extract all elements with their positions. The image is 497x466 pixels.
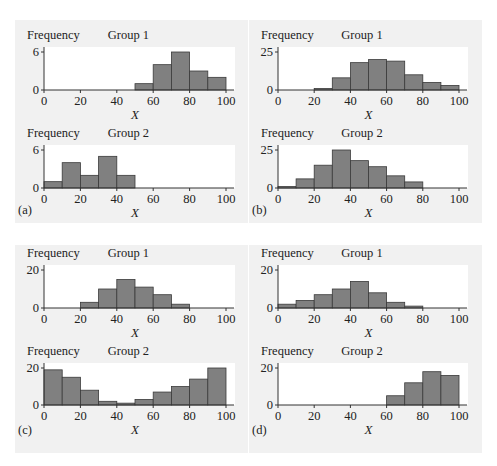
x-tick-label: 100 [217, 192, 236, 206]
subplot-title: Group 1 [108, 28, 149, 42]
histogram-bar [44, 182, 62, 188]
histogram-bar [332, 289, 350, 308]
histogram-figure: FrequencyGroup 106020406080100XFrequency… [0, 0, 497, 466]
histogram-bar [62, 377, 80, 405]
x-tick-label: 100 [450, 312, 469, 326]
histogram-bar [387, 302, 405, 308]
x-tick-label: 0 [275, 409, 281, 423]
x-tick-label: 80 [183, 409, 196, 423]
x-axis-label: X [364, 422, 374, 437]
histogram-bar [153, 295, 171, 308]
histogram-bar [80, 302, 98, 308]
x-axis-label: X [130, 205, 140, 220]
histogram-bar [135, 399, 153, 405]
x-axis-label: X [364, 107, 374, 122]
histogram-bar [190, 71, 208, 90]
y-axis-label: Frequency [27, 126, 81, 140]
y-tick-label: 0 [267, 398, 273, 412]
histogram-bar [190, 379, 208, 405]
x-axis-label: X [130, 107, 140, 122]
subplot-title: Group 2 [108, 344, 149, 358]
x-axis-label: X [364, 205, 374, 220]
x-tick-label: 100 [450, 192, 469, 206]
x-tick-label: 60 [147, 409, 160, 423]
histogram-bar [296, 300, 314, 308]
subplot-title: Group 1 [341, 246, 382, 260]
histogram-bar [171, 304, 189, 308]
y-axis-label: Frequency [27, 344, 81, 358]
y-tick-label: 20 [27, 361, 40, 375]
histogram-bar [99, 401, 117, 405]
y-axis-label: Frequency [27, 28, 81, 42]
x-tick-label: 40 [344, 94, 357, 108]
x-tick-label: 0 [41, 192, 47, 206]
panel-label: (b) [252, 203, 267, 217]
y-tick-label: 20 [261, 361, 274, 375]
histogram-bar [405, 182, 423, 188]
x-tick-label: 40 [344, 409, 357, 423]
x-tick-label: 80 [417, 192, 430, 206]
panel-label: (d) [252, 423, 267, 437]
histogram-bar [99, 289, 117, 308]
y-tick-label: 0 [33, 301, 39, 315]
y-axis-label: Frequency [27, 246, 81, 260]
histogram-bar [332, 150, 350, 188]
subplot-title: Group 1 [341, 28, 382, 42]
histogram-bar [423, 82, 441, 90]
histogram-bar [350, 161, 368, 188]
x-tick-label: 80 [183, 312, 196, 326]
y-axis-label: Frequency [261, 344, 315, 358]
histogram-bar [117, 280, 135, 309]
y-tick-label: 25 [261, 45, 274, 59]
panel-label: (c) [18, 423, 32, 437]
subplot-title: Group 2 [108, 126, 149, 140]
histogram-bar [171, 387, 189, 406]
histogram-bar [296, 179, 314, 188]
histogram-bar [405, 383, 423, 405]
y-tick-label: 25 [261, 143, 274, 157]
x-tick-label: 80 [183, 192, 196, 206]
histogram-bar [135, 84, 153, 90]
histogram-bar [332, 78, 350, 90]
histogram-bar [117, 175, 135, 188]
x-tick-label: 0 [41, 312, 47, 326]
y-tick-label: 20 [261, 263, 274, 277]
y-tick-label: 0 [267, 181, 273, 195]
histogram-bar [208, 77, 226, 90]
x-tick-label: 40 [111, 409, 124, 423]
x-tick-label: 100 [450, 94, 469, 108]
x-tick-label: 60 [380, 192, 393, 206]
histogram-bar [405, 75, 423, 90]
histogram-bar [369, 293, 387, 308]
x-tick-label: 60 [380, 409, 393, 423]
x-tick-label: 0 [275, 192, 281, 206]
x-tick-label: 20 [308, 192, 321, 206]
x-tick-label: 40 [111, 192, 124, 206]
histogram-bar [153, 392, 171, 405]
histogram-bar [44, 370, 62, 405]
histogram-bar [99, 156, 117, 188]
x-tick-label: 0 [41, 409, 47, 423]
x-tick-label: 100 [450, 409, 469, 423]
x-axis-label: X [364, 325, 374, 340]
y-tick-label: 0 [267, 301, 273, 315]
y-tick-label: 0 [33, 181, 39, 195]
x-tick-label: 100 [217, 409, 236, 423]
x-tick-label: 80 [417, 312, 430, 326]
subplot-title: Group 2 [341, 126, 382, 140]
x-tick-label: 40 [344, 192, 357, 206]
histogram-bar [153, 65, 171, 90]
subplot-title: Group 1 [108, 246, 149, 260]
x-tick-label: 80 [417, 94, 430, 108]
subplot-title: Group 2 [341, 344, 382, 358]
y-tick-label: 0 [33, 83, 39, 97]
histogram-bar [350, 63, 368, 90]
histogram-bar [387, 396, 405, 405]
x-tick-label: 100 [217, 312, 236, 326]
histogram-bar [441, 375, 459, 405]
histogram-bar [369, 167, 387, 188]
x-tick-label: 80 [417, 409, 430, 423]
x-axis-label: X [130, 422, 140, 437]
x-tick-label: 0 [275, 94, 281, 108]
histogram-bar [171, 52, 189, 90]
